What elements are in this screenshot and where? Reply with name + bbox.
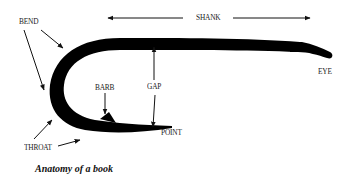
throat-arrow-2 — [58, 140, 80, 146]
label-shank: SHANK — [196, 13, 220, 22]
throat-arrow-1 — [34, 120, 52, 139]
bend-arrow-2 — [41, 30, 63, 48]
gap-arrow-down — [153, 95, 155, 127]
label-point: POINT — [161, 128, 182, 137]
label-throat: THROAT — [24, 143, 52, 152]
label-gap: GAP — [147, 82, 161, 91]
label-bend: BEND — [19, 17, 38, 26]
hook-body — [50, 38, 300, 132]
hook-eye — [290, 42, 332, 58]
bend-arrow-1 — [24, 30, 44, 90]
hook-anatomy-diagram — [0, 0, 350, 177]
label-barb: BARB — [95, 83, 114, 92]
label-eye: EYE — [318, 67, 332, 76]
hook-shape — [50, 38, 333, 132]
diagram-caption: Anatomy of a book — [35, 163, 113, 174]
